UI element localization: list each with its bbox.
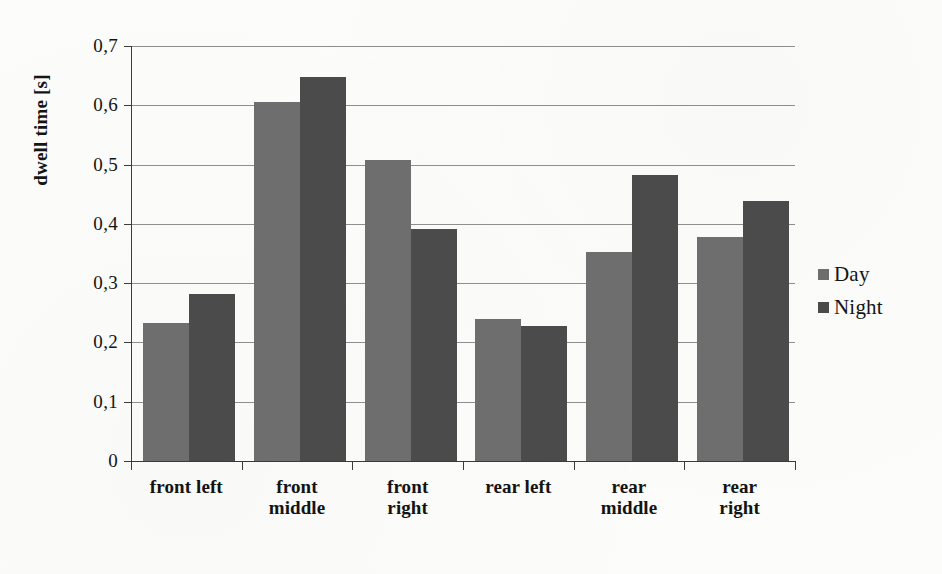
y-axis-tick bbox=[124, 105, 132, 106]
y-axis-tick-label: 0,2 bbox=[8, 331, 118, 353]
bar-day[interactable] bbox=[697, 237, 743, 461]
y-axis-tick bbox=[124, 461, 132, 462]
bar-day[interactable] bbox=[365, 160, 411, 461]
bar-night[interactable] bbox=[743, 201, 789, 461]
x-axis-label: front left bbox=[131, 477, 242, 498]
x-axis-end-tick bbox=[795, 461, 796, 470]
bar-group bbox=[242, 46, 353, 461]
legend-item-day[interactable]: Day bbox=[818, 258, 928, 291]
legend-label: Day bbox=[834, 262, 870, 287]
x-axis-label-line: front bbox=[242, 477, 353, 498]
bar-group bbox=[352, 46, 463, 461]
legend-swatch-icon bbox=[818, 269, 829, 280]
x-axis-label-line: front left bbox=[131, 477, 242, 498]
x-axis-label-line: rear bbox=[574, 477, 685, 498]
chart-legend: DayNight bbox=[818, 258, 928, 324]
y-axis-tick bbox=[124, 165, 132, 166]
bar-night[interactable] bbox=[521, 326, 567, 461]
chart-canvas: dwell time [s] 0,70,60,50,40,30,20,10 fr… bbox=[0, 0, 942, 574]
y-axis-tick-label: 0,7 bbox=[8, 35, 118, 57]
x-axis-label-line: right bbox=[352, 498, 463, 519]
x-axis-end-tick bbox=[131, 461, 132, 470]
x-axis-tick bbox=[352, 461, 353, 470]
y-axis-tick bbox=[124, 342, 132, 343]
x-axis-label: rearright bbox=[684, 477, 795, 518]
bar-night[interactable] bbox=[189, 294, 235, 461]
plot-area bbox=[131, 46, 795, 461]
bar-day[interactable] bbox=[586, 252, 632, 461]
bar-group bbox=[574, 46, 685, 461]
bar-group bbox=[131, 46, 242, 461]
bar-night[interactable] bbox=[411, 229, 457, 461]
y-axis-tick-label: 0,6 bbox=[8, 94, 118, 116]
bar-night[interactable] bbox=[300, 77, 346, 461]
x-axis-label: frontright bbox=[352, 477, 463, 518]
x-axis-label-line: front bbox=[352, 477, 463, 498]
bar-day[interactable] bbox=[143, 323, 189, 461]
x-axis-tick bbox=[463, 461, 464, 470]
y-axis-tick-label: 0,3 bbox=[8, 272, 118, 294]
y-axis-tick-labels: 0,70,60,50,40,30,20,10 bbox=[0, 46, 118, 462]
y-axis-tick-label: 0,4 bbox=[8, 213, 118, 235]
legend-item-night[interactable]: Night bbox=[818, 291, 928, 324]
x-axis-label: rear left bbox=[463, 477, 574, 498]
x-axis-label-line: right bbox=[684, 498, 795, 519]
y-axis-tick-label: 0,5 bbox=[8, 154, 118, 176]
y-axis-tick bbox=[124, 46, 132, 47]
x-axis-label: frontmiddle bbox=[242, 477, 353, 518]
x-axis-label-line: rear left bbox=[463, 477, 574, 498]
x-axis-label-line: middle bbox=[242, 498, 353, 519]
x-axis-tick bbox=[242, 461, 243, 470]
y-axis-tick bbox=[124, 402, 132, 403]
y-axis-tick-label: 0 bbox=[8, 450, 118, 472]
bar-day[interactable] bbox=[254, 102, 300, 461]
bar-group bbox=[684, 46, 795, 461]
x-axis-tick bbox=[684, 461, 685, 470]
legend-label: Night bbox=[834, 295, 883, 320]
y-axis-tick bbox=[124, 283, 132, 284]
bar-day[interactable] bbox=[475, 319, 521, 461]
y-axis-tick bbox=[124, 224, 132, 225]
x-axis-label: rearmiddle bbox=[574, 477, 685, 518]
x-axis-label-line: middle bbox=[574, 498, 685, 519]
x-axis-tick bbox=[574, 461, 575, 470]
x-axis-label-line: rear bbox=[684, 477, 795, 498]
y-axis-tick-label: 0,1 bbox=[8, 391, 118, 413]
legend-swatch-icon bbox=[818, 302, 829, 313]
bar-night[interactable] bbox=[632, 175, 678, 461]
bar-group bbox=[463, 46, 574, 461]
